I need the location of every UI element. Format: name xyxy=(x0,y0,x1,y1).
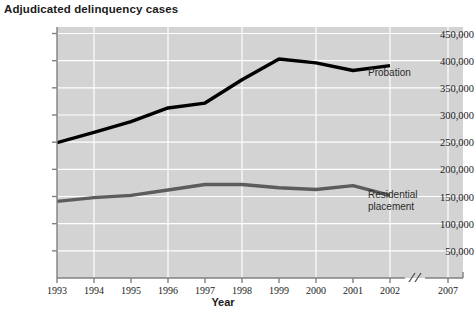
x-axis-tick-label: 1995 xyxy=(121,285,141,296)
series-lines xyxy=(57,27,463,278)
x-axis-tick-label: 2007 xyxy=(438,285,458,296)
x-axis-tick-label: 1997 xyxy=(195,285,215,296)
y-axis-tick-label: 450,000 xyxy=(422,28,474,39)
series-line-probation xyxy=(57,59,390,143)
x-axis-tick-label: 2000 xyxy=(306,285,326,296)
x-axis-title: Year xyxy=(0,296,474,308)
x-axis-ticks xyxy=(57,278,448,283)
plot-area: Probation Residential placement xyxy=(57,27,463,278)
x-axis-tick-label: 1994 xyxy=(84,285,104,296)
x-axis-title-text: Year xyxy=(211,296,234,308)
y-axis-tick-label: 300,000 xyxy=(422,110,474,121)
y-axis-tick-label: 200,000 xyxy=(422,164,474,175)
x-axis-tick-label: 1999 xyxy=(269,285,289,296)
y-axis-tick-label: 150,000 xyxy=(422,191,474,202)
x-axis-tick-label: 2001 xyxy=(343,285,363,296)
y-axis-tick-label: 350,000 xyxy=(422,82,474,93)
series-line-residential xyxy=(57,185,390,202)
y-axis-tick-label: 50,000 xyxy=(422,245,474,256)
chart-title: Adjudicated delinquency cases xyxy=(4,3,178,15)
x-axis-tick-label: 1998 xyxy=(232,285,252,296)
y-axis-tick-label: 400,000 xyxy=(422,55,474,66)
chart-container: Adjudicated delinquency cases Probation … xyxy=(0,0,474,310)
y-axis-tick-label: 100,000 xyxy=(422,218,474,229)
y-axis-tick-label: 250,000 xyxy=(422,137,474,148)
x-axis-tick-label: 2002 xyxy=(380,285,400,296)
x-axis-tick-label: 1996 xyxy=(158,285,178,296)
x-axis-tick-label: 1993 xyxy=(47,285,67,296)
